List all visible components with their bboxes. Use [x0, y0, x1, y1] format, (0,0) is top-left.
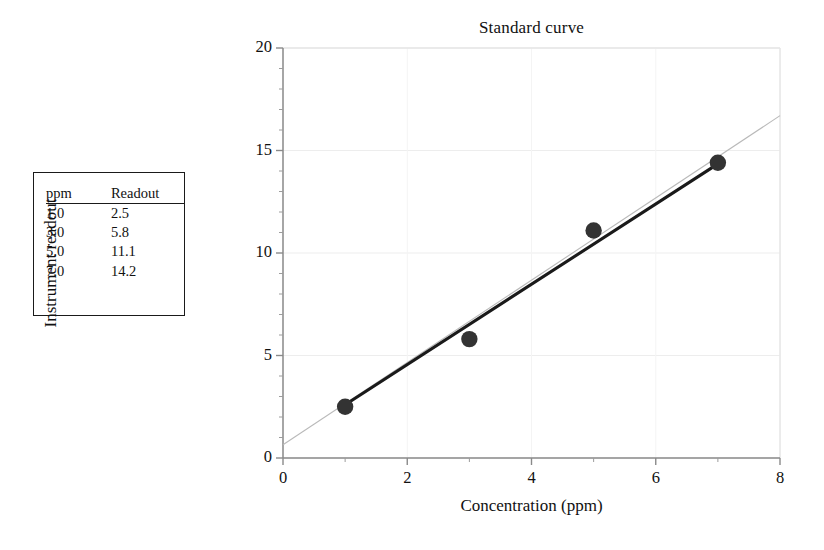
y-tick-label: 15: [232, 140, 272, 160]
y-tick-label: 5: [232, 345, 272, 365]
x-tick-label: 4: [512, 468, 552, 488]
y-tick-label: 10: [232, 242, 272, 262]
y-tick-label: 0: [232, 447, 272, 467]
x-tick-label: 2: [387, 468, 427, 488]
x-tick-label: 8: [760, 468, 800, 488]
x-tick-label: 6: [636, 468, 676, 488]
figure-canvas: ppm Readout 1.0 2.5 3.0 5.8 5.0 11.1: [0, 0, 824, 550]
x-tick-label: 0: [263, 468, 303, 488]
y-tick-label: 20: [232, 37, 272, 57]
standard-curve-chart: Standard curve Instrument readout Concen…: [0, 0, 824, 550]
